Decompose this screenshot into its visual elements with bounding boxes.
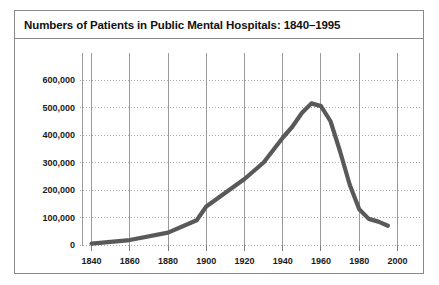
y-axis-tick-label: 300,000	[42, 158, 75, 168]
x-axis-tick-label: 1940	[273, 256, 293, 266]
y-axis-tick-label: 0	[70, 240, 75, 250]
line-chart: 0100,000200,000300,000400,000500,000600,…	[15, 39, 423, 273]
x-axis-tick-label: 1880	[158, 256, 178, 266]
chart-title-bar: Numbers of Patients in Public Mental Hos…	[15, 11, 423, 39]
x-axis-tick-label: 1920	[234, 256, 254, 266]
chart-figure: Numbers of Patients in Public Mental Hos…	[14, 10, 424, 274]
x-axis-tick-label: 1980	[349, 256, 369, 266]
x-axis-tick-label: 1860	[120, 256, 140, 266]
x-axis-tick-label: 1840	[82, 256, 102, 266]
y-axis-tick-label: 200,000	[42, 185, 75, 195]
x-axis-tick-label: 1900	[196, 256, 216, 266]
y-axis-tick-label: 400,000	[42, 130, 75, 140]
page-title: Numbers of Patients in Public Mental Hos…	[15, 19, 340, 31]
y-axis-tick-label: 500,000	[42, 103, 75, 113]
plot-area: 0100,000200,000300,000400,000500,000600,…	[15, 39, 423, 273]
y-axis-tick-label: 600,000	[42, 75, 75, 85]
y-axis-tick-label: 100,000	[42, 213, 75, 223]
x-axis-tick-label: 2000	[387, 256, 407, 266]
data-series-line-0	[92, 103, 388, 243]
x-axis-tick-label: 1960	[311, 256, 331, 266]
